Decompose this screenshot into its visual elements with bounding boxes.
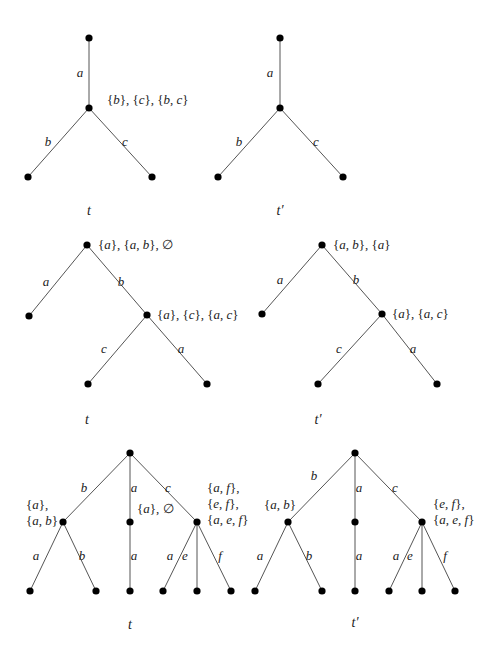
tree-node [314,380,321,387]
tree-node [276,104,283,111]
tree-node [276,34,283,41]
set-annotation: {a, f}, [207,480,239,495]
edge-label: a [277,272,284,287]
edge-label: a [178,341,185,356]
tree-caption: t [85,412,90,427]
tree-edge [63,453,130,522]
edge-label: a [131,480,138,495]
edge-label: a [410,341,417,356]
tree-node [148,173,155,180]
tree-node [227,587,234,594]
tree-edge [28,108,89,177]
tree-node [92,587,99,594]
edge-label: a [131,548,138,563]
tree-edge [288,453,355,522]
tree-caption: t′ [315,412,323,427]
tree-node [318,241,325,248]
tree-node [193,518,200,525]
edge-label: c [122,134,128,149]
set-annotation: {a}, {c}, {a, c} [157,307,239,322]
tree-node [378,310,385,317]
tree-node [351,449,358,456]
edge-label: b [118,274,125,289]
tree-node [339,173,346,180]
set-annotation: {a, e, f} [207,512,248,527]
tree-diagrams-canvas: abc{b}, {c}, {b, c}tabct′abca{a}, {a, b}… [0,0,495,645]
edge-label: a [356,548,363,563]
edges-layer [28,38,455,591]
labels-layer: abc{b}, {c}, {b, c}tabct′abca{a}, {a, b}… [26,65,474,632]
tree-node [203,380,210,387]
set-annotation: {a}, [26,497,48,512]
edge-label: f [218,548,224,563]
tree-node [85,34,92,41]
tree-edge [318,314,382,384]
edge-label: c [313,134,319,149]
edge-label: f [443,548,449,563]
tree-edge [422,522,455,591]
tree-node [351,587,358,594]
set-annotation: {a}, {a, c} [392,306,449,321]
tree-edge [29,245,87,316]
edge-label: b [81,480,88,495]
edge-label: b [45,134,52,149]
edge-label: b [311,468,318,483]
tree-node [85,104,92,111]
tree-edge [218,108,280,177]
edge-label: c [336,341,342,356]
set-annotation: {e, f}, [433,496,465,511]
tree-node [418,518,425,525]
edge-label: b [236,134,243,149]
edge-label: c [101,341,107,356]
tree-node [126,449,133,456]
tree-node [193,587,200,594]
tree-node [83,241,90,248]
tree-node [143,311,150,318]
edge-label: a [393,548,400,563]
tree-node [433,380,440,387]
tree-node [251,587,258,594]
edge-label: b [353,272,360,287]
edge-label: a [43,274,50,289]
tree-node [26,587,33,594]
tree-node [24,173,31,180]
edge-label: a [356,480,363,495]
tree-node [126,587,133,594]
tree-edge [280,108,343,177]
tree-node [351,518,358,525]
tree-node [418,587,425,594]
set-annotation: {a}, {a, b}, ∅ [98,237,173,252]
tree-node [258,310,265,317]
tree-node [385,587,392,594]
tree-node [318,587,325,594]
set-annotation: {a}, ∅ [137,501,174,516]
tree-node [25,312,32,319]
tree-node [59,518,66,525]
tree-node [126,518,133,525]
edge-label: e [407,548,413,563]
tree-node [159,587,166,594]
tree-caption: t′ [352,615,360,630]
set-annotation: {a, b} [264,497,296,512]
tree-edge [88,315,147,384]
tree-edge [89,108,152,177]
set-annotation: {b}, {c}, {b, c} [107,92,189,107]
edge-label: a [33,548,40,563]
tree-node [284,518,291,525]
edge-label: b [306,548,313,563]
tree-node [451,587,458,594]
tree-caption: t′ [277,203,285,218]
edge-label: a [77,65,84,80]
edge-label: a [257,548,264,563]
set-annotation: {e, f}, [207,496,239,511]
edge-label: a [167,548,174,563]
edge-label: a [267,65,274,80]
edge-label: b [79,548,86,563]
tree-node [84,380,91,387]
set-annotation: {a, b} [26,513,58,528]
set-annotation: {a, e, f} [433,512,474,527]
tree-edge [262,245,322,314]
edge-label: c [392,480,398,495]
tree-caption: t [87,203,92,218]
edge-label: e [182,548,188,563]
